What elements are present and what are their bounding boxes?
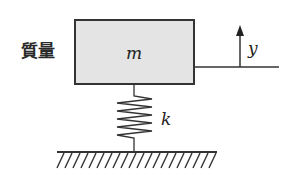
displacement-arrow-icon	[236, 25, 244, 67]
spring-constant-symbol: k	[161, 109, 171, 129]
mass-spring-diagram: m 質量 y k	[0, 0, 290, 190]
displacement-symbol: y	[247, 38, 258, 58]
ground-hatch	[57, 152, 217, 168]
spring	[117, 84, 152, 152]
mass-side-label: 質量	[21, 41, 55, 61]
mass-symbol: m	[126, 43, 142, 63]
